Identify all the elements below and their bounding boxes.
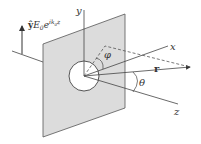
theta-arc bbox=[133, 72, 138, 92]
phi-label: φ bbox=[104, 49, 111, 60]
incident-field-label: ŷE0eik0z bbox=[27, 18, 61, 31]
x-axis-label: x bbox=[170, 41, 176, 52]
aperture-diffraction-diagram: y x z r φ θ ŷE0eik0z bbox=[0, 0, 201, 144]
z-axis-label: z bbox=[173, 106, 180, 117]
theta-label: θ bbox=[139, 77, 145, 88]
incident-wave-line bbox=[12, 51, 43, 62]
r-vector-label: r bbox=[154, 63, 160, 74]
y-axis-label: y bbox=[75, 5, 82, 16]
